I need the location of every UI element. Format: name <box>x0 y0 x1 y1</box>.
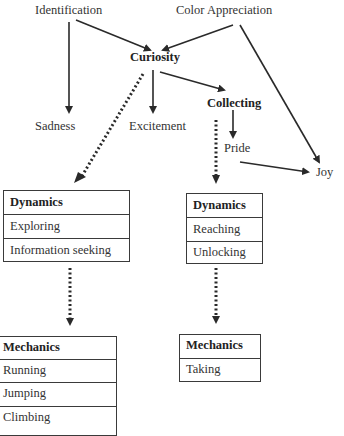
arrow-identification-curiosity <box>76 20 150 50</box>
mechanics-box-left-title: Mechanics <box>0 337 116 360</box>
arrow-color-curiosity <box>163 25 233 50</box>
dynamics-box-right-title: Dynamics <box>187 194 262 218</box>
dynamics-box-left-title: Dynamics <box>4 191 129 215</box>
node-curiosity: Curiosity <box>130 50 180 64</box>
dynamics-box-left-item: Information seeking <box>4 239 129 261</box>
dynamics-box-right-item: Reaching <box>187 218 262 242</box>
mechanics-box-left-item: Climbing <box>0 407 116 435</box>
node-identification: Identification <box>35 3 102 17</box>
arrowhead-right-dynamics <box>212 175 220 184</box>
dynamics-box-right-item: Unlocking <box>187 242 262 263</box>
mechanics-box-left: Mechanics Running Jumping Climbing <box>0 336 117 436</box>
arrowhead-left-dynamics <box>74 172 86 183</box>
node-color-appreciation: Color Appreciation <box>176 3 272 17</box>
mechanics-box-right-item: Taking <box>180 359 260 381</box>
node-joy: Joy <box>316 165 333 179</box>
mechanics-box-left-item: Jumping <box>0 383 116 407</box>
mechanics-box-right: Mechanics Taking <box>179 334 261 382</box>
arrow-color-joy <box>240 25 319 162</box>
mechanics-box-right-title: Mechanics <box>180 335 260 359</box>
arrow-curiosity-collecting <box>160 72 224 90</box>
dynamics-box-left-item: Exploring <box>4 215 129 239</box>
node-sadness: Sadness <box>35 119 75 133</box>
dynamics-box-left: Dynamics Exploring Information seeking <box>3 190 130 262</box>
arrowhead-right-mechanics <box>212 316 220 324</box>
node-pride: Pride <box>224 141 250 155</box>
node-excitement: Excitement <box>129 119 186 133</box>
arrow-pride-joy <box>240 162 308 172</box>
dynamics-box-right: Dynamics Reaching Unlocking <box>186 193 263 264</box>
node-collecting: Collecting <box>207 96 261 110</box>
arrowhead-left-mechanics <box>66 318 74 326</box>
mechanics-box-left-item: Running <box>0 360 116 383</box>
